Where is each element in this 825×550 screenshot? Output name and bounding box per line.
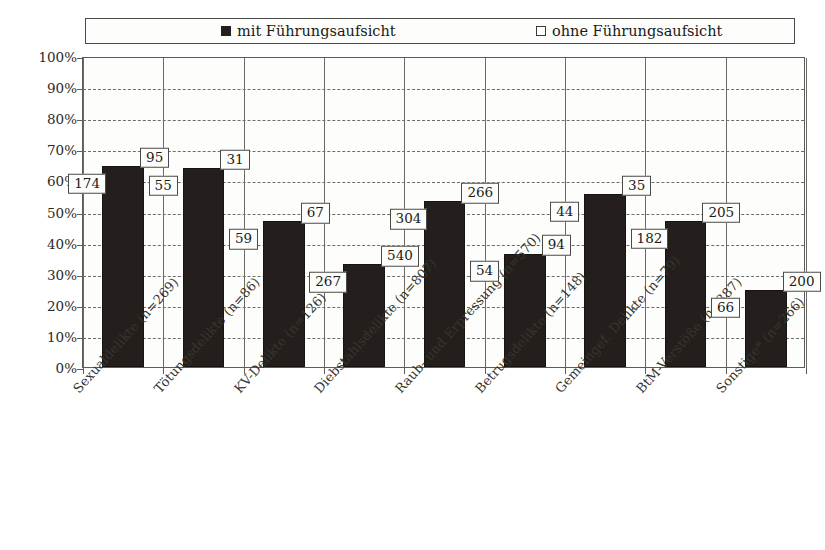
column-separator: [163, 58, 164, 367]
column-separator: [485, 58, 486, 367]
value-callout-ohne: 67: [301, 203, 330, 224]
value-callout-ohne: 95: [140, 148, 169, 169]
gridline: [83, 120, 804, 121]
legend-entry-mit-fuehrungsaufsicht: mit Führungsaufsicht: [221, 19, 396, 43]
value-callout-ohne: 205: [702, 203, 740, 224]
legend-entry-ohne-fuehrungsaufsicht: ohne Führungsaufsicht: [536, 19, 722, 43]
y-axis-tick-label: 50%: [47, 205, 77, 221]
x-axis-labels: Sexualdelikte (n=269)Tötungsdelikte (n=8…: [0, 368, 825, 550]
column-separator: [645, 58, 646, 367]
value-callout-ohne: 35: [622, 176, 651, 197]
column-separator: [244, 58, 245, 367]
filled-square-icon: [221, 26, 231, 36]
value-callout-ohne: 31: [220, 150, 249, 171]
y-axis-tick-label: 30%: [47, 267, 77, 283]
column-separator: [83, 58, 84, 367]
y-axis-tick-label: 90%: [47, 80, 77, 96]
gridline: [83, 151, 804, 152]
value-callout-mit: 59: [229, 229, 258, 250]
hollow-square-icon: [536, 26, 546, 36]
legend-label-mit: mit Führungsaufsicht: [237, 23, 396, 39]
value-callout-ohne: 540: [381, 246, 419, 267]
value-callout-ohne: 94: [542, 235, 571, 256]
value-callout-mit: 174: [68, 174, 106, 195]
chart-legend: mit Führungsaufsicht ohne Führungsaufsic…: [85, 18, 795, 44]
gridline: [83, 89, 804, 90]
y-axis-tick-label: 20%: [47, 298, 77, 314]
column-separator: [806, 58, 807, 367]
y-axis-tick-label: 40%: [47, 236, 77, 252]
value-callout-mit: 182: [631, 229, 669, 250]
value-callout-mit: 66: [711, 298, 740, 319]
value-callout-mit: 55: [149, 176, 178, 197]
legend-label-ohne: ohne Führungsaufsicht: [552, 23, 722, 39]
y-axis-tick-label: 80%: [47, 111, 77, 127]
y-axis-tick-label: 10%: [47, 329, 77, 345]
y-axis-tick-label: 70%: [47, 142, 77, 158]
value-callout-ohne: 200: [783, 272, 821, 293]
value-callout-mit: 44: [550, 202, 579, 223]
y-axis-tick-label: 100%: [38, 49, 77, 65]
value-callout-mit: 304: [390, 209, 428, 230]
value-callout-mit: 54: [470, 261, 499, 282]
value-callout-ohne: 266: [461, 183, 499, 204]
value-callout-mit: 267: [309, 272, 347, 293]
